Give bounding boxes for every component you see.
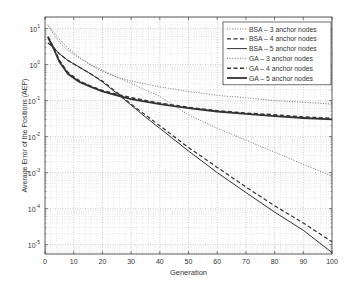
x-tick-label: 0: [43, 258, 47, 265]
legend-entry: GA – 4 anchor nodes: [249, 65, 313, 72]
x-tick-label: 60: [213, 258, 221, 265]
x-axis-label: Generation: [170, 268, 207, 277]
x-tick-label: 10: [70, 258, 78, 265]
y-axis-label: Average Error of the Positions (AEP): [21, 79, 29, 193]
legend-entry: BSA – 4 anchor nodes: [249, 35, 317, 42]
x-tick-label: 70: [242, 258, 250, 265]
chart: 0102030405060708090100 10110010-110-210-…: [0, 0, 355, 293]
x-tick-label: 50: [185, 258, 193, 265]
legend-entry: BSA – 5 anchor nodes: [249, 45, 317, 52]
x-tick-label: 20: [99, 258, 107, 265]
x-tick-label: 40: [156, 258, 164, 265]
legend-entry: GA – 5 anchor nodes: [249, 75, 313, 82]
legend-entry: BSA – 3 anchor nodes: [249, 26, 317, 33]
x-tick-label: 100: [326, 258, 338, 265]
x-tick-label: 80: [271, 258, 279, 265]
legend: BSA – 3 anchor nodesBSA – 4 anchor nodes…: [223, 22, 331, 85]
legend-entry: GA – 3 anchor nodes: [249, 55, 313, 62]
x-tick-label: 30: [127, 258, 135, 265]
x-tick-label: 90: [299, 258, 307, 265]
